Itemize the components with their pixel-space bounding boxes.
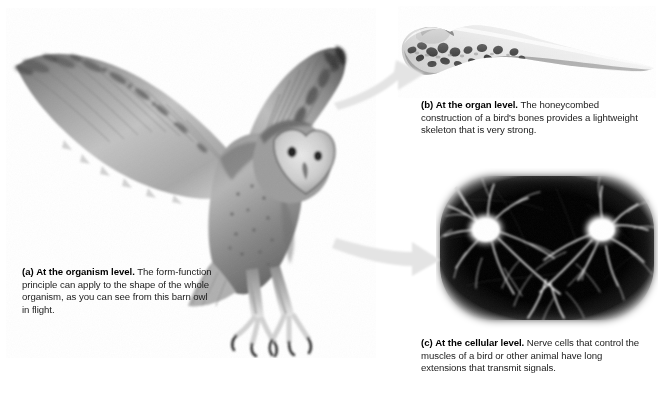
caption-a-label: (a) [22, 266, 34, 277]
nerve-cell-micrograph [436, 168, 658, 330]
caption-b-label: (b) [421, 99, 433, 110]
caption-b: (b) At the organ level. The honeycombed … [421, 99, 647, 137]
caption-b-lead: At the organ level. [436, 99, 518, 110]
caption-c-label: (c) [421, 337, 433, 348]
caption-c: (c) At the cellular level. Nerve cells t… [421, 337, 649, 375]
caption-c-lead: At the cellular level. [435, 337, 524, 348]
caption-a-lead: At the organism level. [36, 266, 135, 277]
bird-bone-photo [398, 6, 656, 98]
caption-a: (a) At the organism level. The form-func… [22, 266, 214, 316]
